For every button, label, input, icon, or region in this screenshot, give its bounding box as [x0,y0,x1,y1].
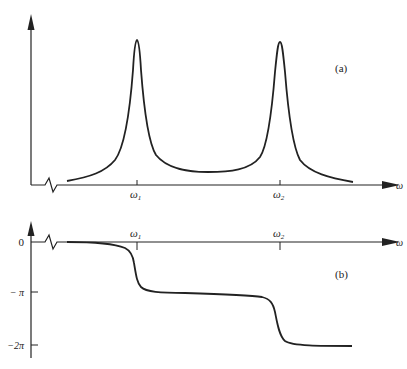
panel-a-x-axis [31,178,390,192]
amplitude-curve [67,40,353,182]
panel-a-y-arrow-icon [28,14,35,30]
panel-a-tick-label-omega2: ω2 [273,188,285,202]
chart-canvas: (a) ω1 ω2 ω (b) ω1 ω2 ω 0 [0,0,407,369]
panel-b-x-axis-label: ω [396,237,403,248]
panel-b-tick-label-omega2: ω2 [273,227,285,241]
panel-b-label: (b) [335,268,348,281]
panel-a-label: (a) [335,62,348,75]
panel-b: (b) ω1 ω2 ω 0 − π −2π [7,221,403,358]
figure: (a) ω1 ω2 ω (b) ω1 ω2 ω 0 [0,0,407,369]
panel-b-tick-label-omega1: ω1 [130,227,141,241]
panel-a-tick-label-omega1: ω1 [130,188,141,202]
panel-b-y-tick-label-zero: 0 [19,236,25,248]
phase-curve [67,242,352,346]
panel-a-x-axis-label: ω [396,180,403,191]
panel-a: (a) ω1 ω2 ω [28,14,404,202]
panel-b-y-tick-label-minus-pi: − π [10,287,25,298]
panel-b-y-tick-label-minus-2pi: −2π [7,340,25,351]
panel-b-y-arrow-icon [28,221,35,236]
